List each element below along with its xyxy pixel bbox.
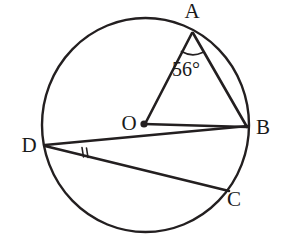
angle-arc-at-A: [182, 52, 203, 55]
angle-value-label-56: 56°: [172, 58, 200, 80]
geometry-canvas: A B C D O 56°: [0, 0, 286, 240]
segment-DC: [45, 146, 229, 191]
center-point-dot: [140, 120, 147, 127]
vertex-label-C: C: [227, 187, 241, 211]
geometry-figure: A B C D O 56°: [0, 0, 286, 240]
vertex-label-D: D: [21, 133, 36, 157]
vertex-label-O: O: [121, 111, 136, 135]
vertex-label-A: A: [184, 0, 200, 23]
vertex-label-B: B: [256, 115, 270, 139]
segment-DB: [45, 126, 248, 145]
